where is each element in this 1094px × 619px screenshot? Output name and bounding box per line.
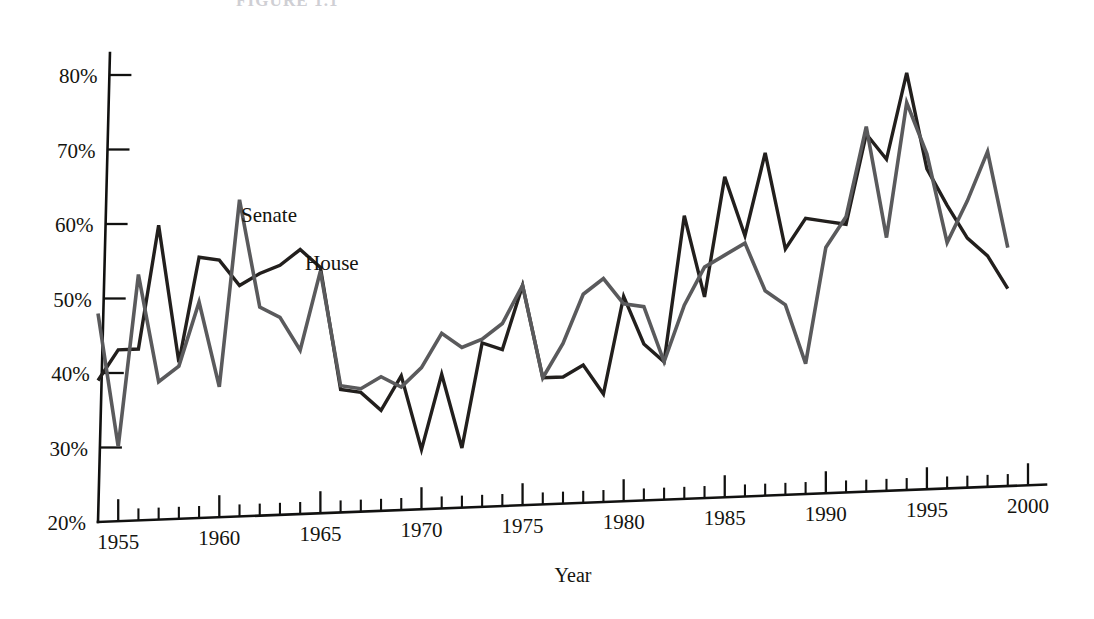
y-axis-tick-label: 60% bbox=[55, 213, 94, 237]
y-axis-tick-label: 70% bbox=[57, 139, 96, 163]
line-chart: 20%30%40%50%60%70%80%1955196019651970197… bbox=[0, 0, 1094, 619]
y-axis-tick-label: 40% bbox=[51, 362, 90, 386]
x-axis-tick-label: 1965 bbox=[299, 522, 341, 546]
x-axis-tick-label: 2000 bbox=[1007, 494, 1049, 518]
figure-root: FIGURE 1.1 20%30%40%50%60%70%80%19551960… bbox=[0, 0, 1094, 619]
y-axis-tick-label: 80% bbox=[59, 64, 98, 88]
x-axis-tick-label: 1960 bbox=[198, 526, 240, 550]
series-line-senate bbox=[98, 103, 1008, 447]
y-axis-tick-label: 30% bbox=[49, 437, 88, 461]
y-axis-line bbox=[98, 53, 110, 522]
x-axis-tick-label: 1985 bbox=[704, 506, 746, 530]
y-axis-tick-label: 20% bbox=[48, 511, 87, 535]
x-axis-title: Year bbox=[555, 564, 592, 586]
x-axis-tick-label: 1955 bbox=[97, 530, 139, 554]
house-series-label: House bbox=[305, 251, 359, 275]
x-axis-tick-label: 1990 bbox=[805, 502, 847, 526]
senate-series-label: Senate bbox=[241, 203, 297, 227]
x-axis-tick-label: 1995 bbox=[906, 498, 948, 522]
x-axis-tick-label: 1980 bbox=[603, 510, 645, 534]
y-axis-tick-label: 50% bbox=[53, 288, 92, 312]
x-axis-tick-label: 1970 bbox=[400, 518, 442, 542]
x-axis-tick-label: 1975 bbox=[502, 514, 544, 538]
